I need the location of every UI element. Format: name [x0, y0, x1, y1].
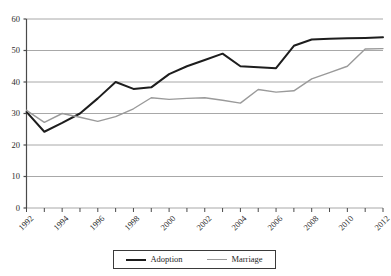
y-tick-label-10: 10 [0, 172, 20, 181]
y-tick-label-0: 0 [0, 204, 20, 213]
legend-item-adoption[interactable]: Adoption [126, 255, 182, 264]
xticks-group [27, 208, 384, 212]
marriage-line-swatch-icon [207, 259, 227, 260]
legend-label-adoption: Adoption [150, 255, 182, 264]
y-tick-label-30: 30 [0, 109, 20, 118]
y-tick-label-20: 20 [0, 141, 20, 150]
axis-group [24, 19, 27, 208]
adoption-line-swatch-icon [126, 259, 146, 261]
y-tick-label-60: 60 [0, 15, 20, 24]
legend-label-marriage: Marriage [231, 255, 262, 264]
series-group [27, 37, 384, 132]
y-tick-label-50: 50 [0, 46, 20, 55]
y-tick-label-40: 40 [0, 78, 20, 87]
chart-legend: Adoption Marriage [113, 250, 276, 269]
legend-item-marriage[interactable]: Marriage [207, 255, 262, 264]
